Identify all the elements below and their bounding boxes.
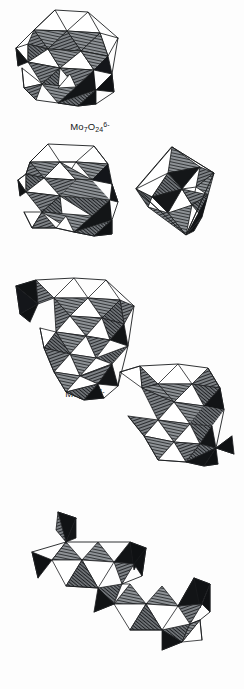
structure-mo8o26: Mo8O264-	[14, 140, 134, 245]
caption-element: Mo	[70, 121, 83, 132]
caption-mo7o24: Mo7O246-	[8, 121, 172, 133]
mo7o24-polyhedral-drawing	[8, 4, 138, 116]
structure-mo7o24: Mo7O246-	[8, 4, 138, 116]
figure-sheet: Mo7O246-	[0, 0, 244, 689]
mo8o27-polyhedral-chain-drawing	[8, 268, 238, 480]
caption-charge: 6-	[103, 121, 109, 128]
mo8o26-polyhedral-drawing	[14, 140, 134, 245]
structure-mo4o14: [Mo4O144-]n	[18, 508, 236, 653]
structure-mo8o27: [Mo8O276-]n	[8, 268, 238, 480]
structure-mo6o19: Mo6O192-	[128, 143, 232, 243]
mo6o19-polyhedral-drawing	[128, 143, 232, 243]
mo4o14-polyhedral-chain-drawing	[18, 508, 236, 653]
